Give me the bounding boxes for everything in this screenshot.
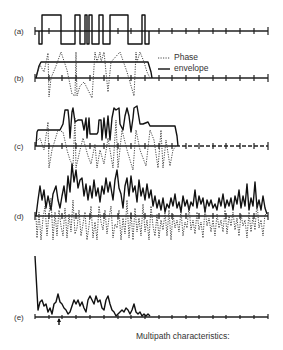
panel-c	[35, 106, 268, 170]
spectrum-e	[35, 256, 150, 316]
panel-label-d: (d)	[14, 212, 24, 221]
panel-label-c: (c)	[14, 142, 24, 151]
panel-e	[35, 256, 268, 325]
panel-label-e: (e)	[14, 313, 24, 322]
panel-label-a: (a)	[14, 27, 24, 36]
panel-label-b: (b)	[14, 74, 24, 83]
multipath-figure: (a) (b) (c) (d) (e)	[0, 0, 283, 350]
square-wave	[39, 15, 149, 44]
panel-a	[35, 15, 268, 44]
panel-d	[35, 164, 268, 240]
phase-b	[36, 52, 150, 98]
envelope-c	[36, 106, 178, 146]
legend-envelope-label: envelope	[174, 63, 209, 73]
legend-phase-label: Phase	[174, 52, 198, 62]
legend: Phase envelope	[158, 52, 209, 73]
panel-b	[35, 52, 268, 98]
figure-caption: Multipath characteristics:	[136, 331, 230, 341]
marker-arrow-icon	[57, 318, 61, 322]
envelope-d	[36, 164, 267, 216]
